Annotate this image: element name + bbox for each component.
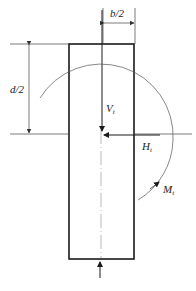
horizontal-force-label: Ht	[141, 140, 153, 154]
moment-label: Mt	[162, 183, 175, 197]
d-half-label: d/2	[10, 83, 25, 95]
moment-arrow-head	[150, 182, 159, 189]
vertical-force-label: Vt	[106, 102, 116, 116]
pile-cap-force-diagram: b/2 d/2 Vt Ht Mt	[0, 0, 196, 291]
b-half-label: b/2	[110, 7, 125, 19]
moment-arc	[40, 64, 173, 200]
